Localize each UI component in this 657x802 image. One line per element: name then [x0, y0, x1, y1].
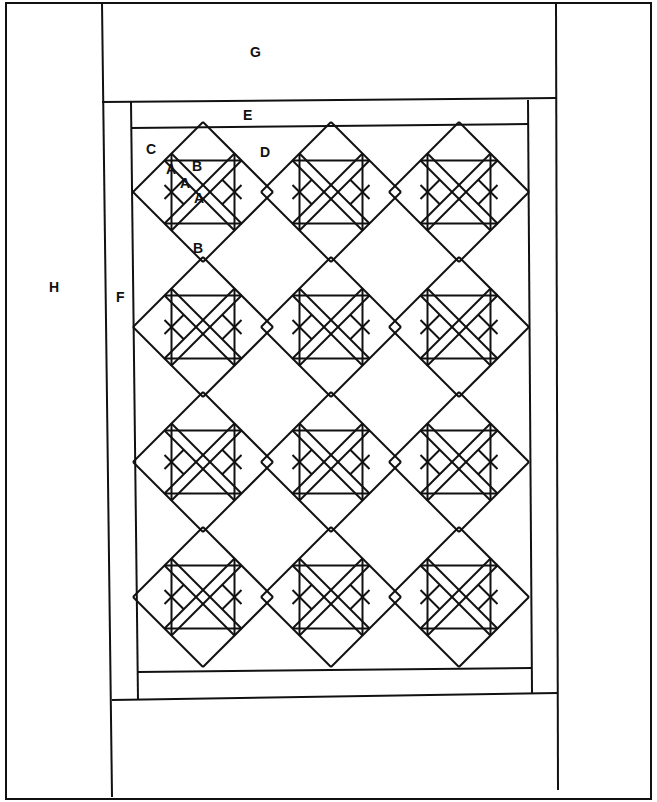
label-f: F: [116, 289, 125, 305]
quilt-blocks: [133, 122, 529, 667]
border-h-divider-right: [556, 3, 558, 790]
border-f-right-inner: [528, 100, 532, 693]
border-h-divider-left: [102, 3, 112, 797]
diagram-lines: [6, 3, 651, 799]
label-d: D: [260, 144, 270, 160]
border-g-bottom: [102, 98, 556, 102]
border-g-bottom-panel-top: [112, 693, 558, 700]
label-h: H: [49, 279, 59, 295]
border-e-bottom-inner: [138, 668, 532, 672]
label-a-1: A: [166, 161, 176, 177]
label-b-2: B: [193, 240, 203, 256]
label-g: G: [250, 44, 261, 60]
label-b-1: B: [192, 158, 202, 174]
quilt-diagram: G E C D F H A A A B B: [0, 0, 657, 802]
label-a-2: A: [180, 175, 190, 191]
label-c: C: [146, 141, 156, 157]
label-a-3: A: [194, 190, 204, 206]
label-e: E: [243, 107, 252, 123]
